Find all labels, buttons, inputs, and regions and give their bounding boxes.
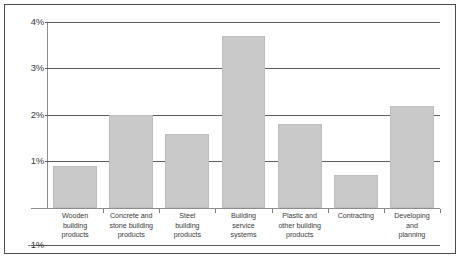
category-label: Concrete andstone buildingproducts [103, 209, 159, 245]
category-label-line: Wooden [62, 211, 88, 221]
category-label-line: other building [278, 221, 320, 231]
category-label-line: service [232, 221, 254, 231]
category-label-line: Concrete and [110, 211, 153, 221]
category-label-line: and [406, 221, 418, 231]
category-label-line: Building [231, 211, 256, 221]
category-label: Contracting [328, 209, 384, 245]
y-tick-label-2pct: 2% [10, 110, 44, 120]
category-label: Steelbuildingproducts [159, 209, 215, 245]
y-tick-4pct: 4% [4, 17, 44, 27]
y-tick-label-3pct: 3% [10, 63, 44, 73]
category-label-line: systems [230, 230, 256, 240]
category-label-band: WoodenbuildingproductsConcrete andstone … [31, 209, 440, 245]
category-label: Plastic andother buildingproducts [272, 209, 328, 245]
category-separator-tick [159, 209, 160, 213]
y-tick-2pct: 2% [4, 110, 44, 120]
y-tick-label-4pct: 4% [10, 17, 44, 27]
category-separator-tick [384, 209, 385, 213]
category-label-line: products [61, 230, 88, 240]
category-label-line: Plastic and [282, 211, 317, 221]
category-separator-tick [103, 209, 104, 213]
bar[interactable] [390, 106, 434, 208]
bars-layer [47, 22, 440, 208]
category-label-line: Contracting [338, 211, 374, 221]
category-label-line: products [174, 230, 201, 240]
category-separator-tick [328, 209, 329, 213]
category-label: Woodenbuildingproducts [47, 209, 103, 245]
category-label-line: products [286, 230, 313, 240]
chart-bottom-rule [31, 245, 440, 246]
bar[interactable] [109, 115, 153, 208]
bar[interactable] [53, 166, 97, 208]
bar[interactable] [334, 175, 378, 208]
category-label-line: stone building [109, 221, 153, 231]
bar[interactable] [165, 134, 209, 208]
category-label-line: planning [399, 230, 426, 240]
bar[interactable] [222, 36, 266, 208]
y-tick-label-1pct: 1% [10, 156, 44, 166]
category-separator-tick [272, 209, 273, 213]
category-label-line: Developing [394, 211, 429, 221]
category-label-line: Steel [179, 211, 195, 221]
y-tick-1pct: 1% [4, 156, 44, 166]
bar-chart: 4% 3% 2% 1% -1% WoodenbuildingproductsCo… [0, 0, 461, 259]
category-label: Buildingservicesystems [215, 209, 271, 245]
category-label-line: building [175, 221, 199, 231]
category-separator-tick [215, 209, 216, 213]
category-label: Developingandplanning [384, 209, 440, 245]
y-tick-3pct: 3% [4, 63, 44, 73]
category-label-line: building [63, 221, 87, 231]
category-separator-tick [440, 209, 441, 213]
category-label-line: products [118, 230, 145, 240]
bar[interactable] [278, 124, 322, 208]
